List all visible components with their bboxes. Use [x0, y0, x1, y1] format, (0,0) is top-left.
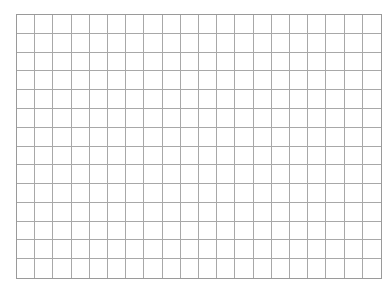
grid-cell [35, 165, 53, 184]
grid-cell [35, 147, 53, 166]
grid-cell [126, 222, 144, 241]
grid-cell [217, 90, 235, 109]
grid-cell [217, 109, 235, 128]
grid-cell [181, 71, 199, 90]
grid-cell [254, 259, 272, 278]
grid-cell [254, 90, 272, 109]
grid-cell [290, 53, 308, 72]
grid-cell [345, 222, 363, 241]
grid-cell [126, 90, 144, 109]
grid-cell [217, 222, 235, 241]
grid-cell [72, 128, 90, 147]
grid-cell [217, 34, 235, 53]
grid-cell [126, 71, 144, 90]
grid-cell [163, 90, 181, 109]
grid-cell [181, 90, 199, 109]
grid-cell [53, 240, 71, 259]
grid-cell [126, 34, 144, 53]
grid-cell [235, 147, 253, 166]
grid-cell [235, 240, 253, 259]
grid-cell [199, 15, 217, 34]
grid-cell [254, 53, 272, 72]
grid-cell [272, 184, 290, 203]
grid-cell [363, 222, 381, 241]
grid-cell [272, 15, 290, 34]
grid-cell [363, 165, 381, 184]
grid-cell [272, 222, 290, 241]
grid-cell [35, 222, 53, 241]
grid-cell [17, 203, 35, 222]
grid-cell [235, 109, 253, 128]
grid-cell [326, 222, 344, 241]
grid-cell [363, 90, 381, 109]
grid-cell [290, 147, 308, 166]
grid-cell [235, 222, 253, 241]
grid-cell [72, 90, 90, 109]
grid-cell [254, 34, 272, 53]
grid-cell [163, 184, 181, 203]
grid-cell [108, 222, 126, 241]
grid-cell [163, 53, 181, 72]
grid-cell [17, 109, 35, 128]
grid-cell [181, 53, 199, 72]
grid-cell [308, 71, 326, 90]
grid-cell [163, 15, 181, 34]
grid-cell [35, 15, 53, 34]
grid-cell [126, 53, 144, 72]
grid-cell [35, 203, 53, 222]
grid-cell [254, 71, 272, 90]
grid-cell [144, 71, 162, 90]
grid-cell [72, 34, 90, 53]
grid-cell [17, 34, 35, 53]
grid-cell [217, 203, 235, 222]
grid-cell [163, 222, 181, 241]
grid-cell [363, 184, 381, 203]
grid-cell [308, 90, 326, 109]
grid-cell [17, 128, 35, 147]
grid-cell [326, 147, 344, 166]
grid-cell [290, 128, 308, 147]
grid-cell [345, 259, 363, 278]
grid-cell [308, 203, 326, 222]
grid-cell [326, 71, 344, 90]
grid-cell [217, 15, 235, 34]
grid-cell [90, 90, 108, 109]
grid-cell [144, 222, 162, 241]
grid-cell [163, 109, 181, 128]
grid-cell [126, 128, 144, 147]
grid-cell [199, 34, 217, 53]
grid-cell [326, 184, 344, 203]
grid-cell [72, 203, 90, 222]
grid-cell [126, 109, 144, 128]
grid-cell [345, 184, 363, 203]
grid-cell [308, 165, 326, 184]
grid-paper [16, 14, 382, 279]
grid-cell [217, 128, 235, 147]
grid-cell [235, 259, 253, 278]
grid-cell [53, 109, 71, 128]
grid-cell [90, 15, 108, 34]
grid-cell [144, 53, 162, 72]
grid-cell [72, 222, 90, 241]
grid-cell [181, 240, 199, 259]
grid-cell [90, 34, 108, 53]
grid-cell [235, 165, 253, 184]
grid-cell [272, 259, 290, 278]
grid-cell [199, 259, 217, 278]
grid-cell [72, 184, 90, 203]
grid-cell [17, 165, 35, 184]
grid-cell [345, 147, 363, 166]
grid-cell [326, 53, 344, 72]
grid-cell [326, 34, 344, 53]
grid-cell [345, 203, 363, 222]
grid-cell [181, 109, 199, 128]
grid-cell [35, 53, 53, 72]
grid-cell [72, 147, 90, 166]
grid-cell [272, 147, 290, 166]
grid-cell [272, 34, 290, 53]
grid-cell [53, 222, 71, 241]
grid-cell [181, 128, 199, 147]
grid-cell [144, 203, 162, 222]
grid-cell [308, 128, 326, 147]
grid-cell [126, 15, 144, 34]
